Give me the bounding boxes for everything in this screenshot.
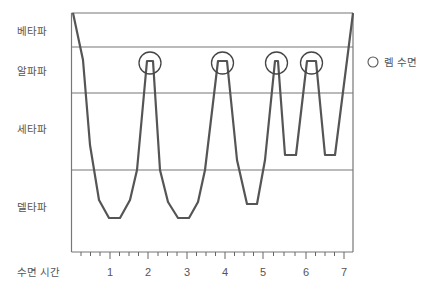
rem-circle-4: [301, 52, 323, 74]
sleep-stage-line: [73, 13, 353, 218]
legend-circle-icon: [368, 57, 378, 67]
legend: 렘 수면: [368, 56, 417, 68]
x-tick-1: 1: [107, 266, 113, 278]
rem-circle-3: [266, 52, 288, 74]
rem-circle-1: [139, 52, 161, 74]
x-tick-2: 2: [145, 266, 151, 278]
plot-frame: [72, 13, 354, 252]
y-label-alpha: 알파파: [17, 65, 47, 77]
x-tick-7: 7: [341, 266, 347, 278]
y-label-theta: 세타파: [17, 123, 47, 135]
y-label-delta: 델타파: [17, 201, 47, 213]
x-tick-4: 4: [222, 266, 228, 278]
x-tick-3: 3: [184, 266, 190, 278]
rem-markers: [139, 52, 323, 74]
y-label-beta: 베타파: [17, 25, 47, 37]
x-tick-5: 5: [260, 266, 266, 278]
x-axis-ticks: [81, 252, 344, 259]
x-axis-label: 수면 시간: [17, 266, 60, 278]
sleep-stage-chart: 베타파 알파파 세타파 델타파 수면 시간 1 2 3 4 5 6 7 렘 수면: [0, 0, 438, 294]
x-tick-6: 6: [303, 266, 309, 278]
legend-label: 렘 수면: [384, 56, 417, 68]
rem-circle-2: [212, 52, 234, 74]
